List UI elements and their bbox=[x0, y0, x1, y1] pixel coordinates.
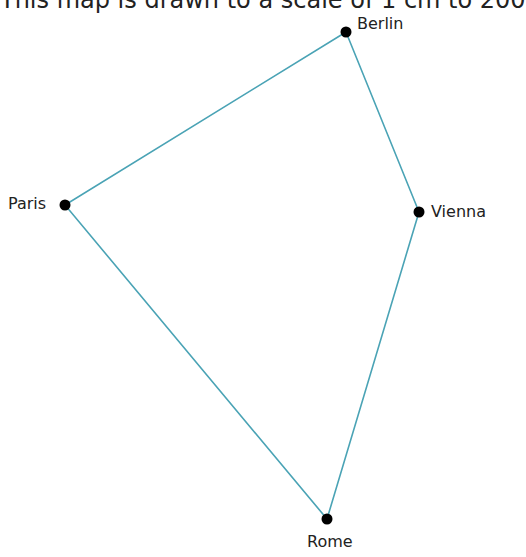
city-dot-vienna bbox=[414, 207, 425, 218]
city-dot-rome bbox=[322, 514, 333, 525]
city-label-vienna: Vienna bbox=[431, 202, 486, 221]
city-label-berlin: Berlin bbox=[357, 14, 403, 33]
route-outline bbox=[65, 32, 419, 519]
city-label-paris: Paris bbox=[8, 194, 46, 213]
city-label-rome: Rome bbox=[307, 532, 353, 551]
city-dot-berlin bbox=[341, 27, 352, 38]
city-dot-paris bbox=[60, 200, 71, 211]
